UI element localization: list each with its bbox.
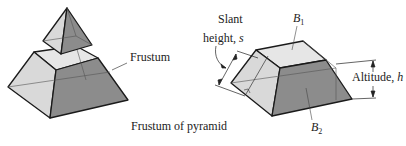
- figure-caption: Frustum of pyramid: [131, 119, 227, 133]
- frustum-callout-leader: [112, 63, 127, 70]
- right-frustum: [231, 41, 352, 116]
- pyramid-frustum-figure: Frustum Frustum of pyramid: [8, 8, 227, 133]
- labeled-frustum-figure: Slant height, s B1 B2 Altitude, h: [203, 11, 403, 136]
- b1-label: B1: [293, 11, 304, 27]
- b2-label: B2: [311, 120, 322, 136]
- slant-label-line2: height, s: [203, 31, 244, 45]
- slant-label-line1: Slant: [218, 12, 243, 26]
- frustum-label: Frustum: [130, 50, 171, 64]
- altitude-label: Altitude, h: [352, 70, 403, 84]
- left-pyramid-cap: [43, 8, 92, 54]
- frustum-diagram: Frustum Frustum of pyramid: [0, 0, 406, 146]
- left-frustum: [8, 46, 128, 118]
